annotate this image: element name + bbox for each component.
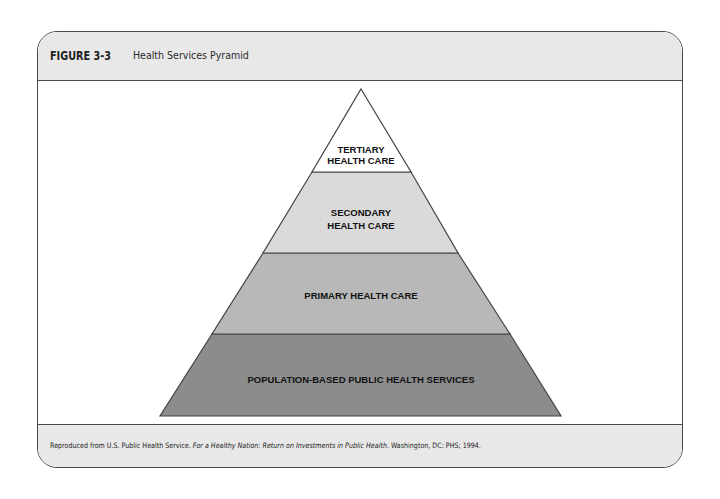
label-population: POPULATION-BASED PUBLIC HEALTH SERVICES xyxy=(248,374,475,385)
label-primary: PRIMARY HEALTH CARE xyxy=(304,290,417,301)
label-tertiary-line2: HEALTH CARE xyxy=(327,155,394,166)
label-secondary-line1: SECONDARY xyxy=(331,207,392,218)
label-secondary-line2: HEALTH CARE xyxy=(327,220,394,231)
label-tertiary-line1: TERTIARY xyxy=(337,144,385,155)
health-services-pyramid: TERTIARY HEALTH CARE SECONDARY HEALTH CA… xyxy=(0,0,720,499)
